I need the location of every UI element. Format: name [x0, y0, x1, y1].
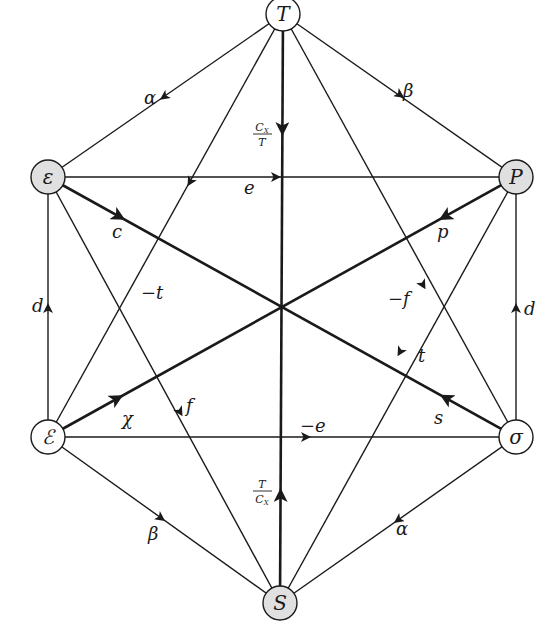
edge-P-S — [280, 177, 516, 603]
edge-T-Eps — [48, 14, 283, 437]
edge-Eps-S — [48, 437, 280, 603]
node-S-label: S — [273, 591, 287, 615]
svg-text:CX: CX — [255, 493, 269, 507]
node-P-label: P — [508, 165, 523, 189]
label-t-over-cx: T CX — [253, 478, 272, 507]
label-neg-e: −e — [300, 415, 326, 436]
label-alpha-bottom: α — [396, 518, 408, 539]
thermodynamic-hexagon-diagram: T ε P ℰ σ S α β e c p d d −t −f — [0, 0, 559, 625]
label-d-left: d — [32, 295, 44, 316]
label-e: e — [244, 177, 255, 198]
node-sigma-label: σ — [509, 425, 524, 449]
edge-T-P — [283, 14, 516, 177]
svg-text:CX: CX — [255, 121, 269, 135]
node-script-E-label: ℰ — [42, 425, 56, 449]
label-neg-f: −f — [388, 288, 413, 309]
node-T: T — [266, 0, 300, 31]
node-epsilon: ε — [31, 160, 65, 194]
edge-T-eps — [48, 14, 283, 177]
node-sigma: σ — [499, 420, 533, 454]
arrow-f — [176, 405, 180, 412]
label-beta-bottom: β — [147, 523, 158, 544]
node-S: S — [263, 586, 297, 620]
label-d-right: d — [524, 298, 536, 319]
node-script-E: ℰ — [31, 420, 65, 454]
label-s: s — [434, 407, 443, 428]
label-p: p — [437, 221, 449, 242]
label-t: t — [418, 345, 426, 366]
arrow-t — [400, 345, 404, 352]
frac-top-denominator: T — [258, 136, 267, 149]
edge-labels: α β e c p d d −t −f t f χ s −e β α CX T … — [32, 80, 536, 544]
label-c: c — [112, 221, 122, 242]
frac-bot-numerator: T — [258, 478, 267, 491]
label-chi: χ — [120, 408, 134, 429]
arrow-neg-f — [419, 278, 423, 285]
label-cx-over-t: CX T — [253, 121, 272, 149]
node-epsilon-label: ε — [43, 165, 54, 189]
label-beta-top: β — [402, 80, 413, 101]
node-T-label: T — [276, 2, 291, 26]
label-alpha-top: α — [144, 87, 156, 108]
node-P: P — [499, 160, 533, 194]
frac-bot-subscript: X — [263, 499, 270, 507]
label-neg-t: −t — [141, 282, 164, 303]
label-f: f — [184, 395, 196, 416]
